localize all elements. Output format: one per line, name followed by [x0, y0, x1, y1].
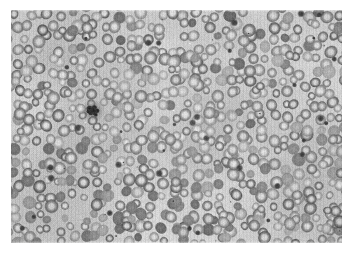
micrograph-page: [0, 0, 352, 257]
micrograph-frame: [11, 10, 342, 243]
caption: [11, 245, 342, 256]
blood-smear-micrograph: [11, 10, 342, 243]
